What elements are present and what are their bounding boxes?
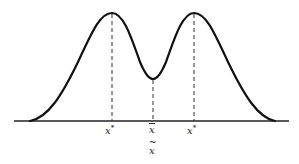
right-mode-superscript: *	[193, 124, 197, 132]
mean-symbol-xbar: x	[149, 125, 155, 135]
mean-label: x	[149, 125, 155, 135]
right-mode-label: x*	[187, 125, 196, 136]
diagram-canvas: x* x x* ~x	[0, 0, 299, 164]
tilde-accent: ~	[149, 138, 155, 147]
left-mode-superscript: *	[111, 124, 115, 132]
left-mode-label: x*	[105, 125, 114, 136]
median-label: ~x	[149, 146, 155, 156]
